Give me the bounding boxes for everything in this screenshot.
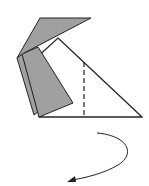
diagram-svg — [0, 0, 149, 186]
origami-diagram — [0, 0, 149, 186]
arrowhead-icon — [67, 176, 76, 182]
turn-over-arrow — [72, 133, 128, 180]
